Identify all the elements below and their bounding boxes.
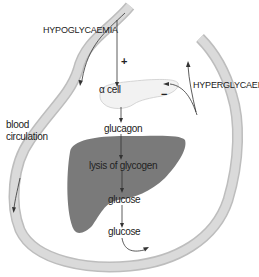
arrowhead-glucose-into-vessel — [143, 247, 149, 252]
blood-circulation-label-line1: blood — [6, 120, 29, 130]
hyperglycaemia-label: HYPERGLYCAEMIA — [193, 81, 259, 90]
hypoglycaemia-label: HYPOGLYCAEMIA — [43, 26, 118, 35]
liver-shape — [67, 136, 185, 233]
glucose-liver-label: glucose — [108, 195, 140, 205]
glucagon-label: glucagon — [104, 124, 142, 134]
alpha-cell-label: α cell — [99, 85, 121, 95]
arrow-glucose-into-vessel — [122, 238, 144, 251]
flow-arrowhead-right — [186, 61, 191, 67]
blood-circulation-label-line2: circulation — [6, 132, 48, 142]
minus-sign: − — [161, 89, 167, 100]
plus-sign: + — [121, 56, 127, 67]
flow-arrowhead-top-left — [79, 80, 84, 86]
lysis-of-glycogen-label: lysis of glycogen — [89, 161, 157, 171]
glucose-blood-label: glucose — [108, 227, 140, 237]
